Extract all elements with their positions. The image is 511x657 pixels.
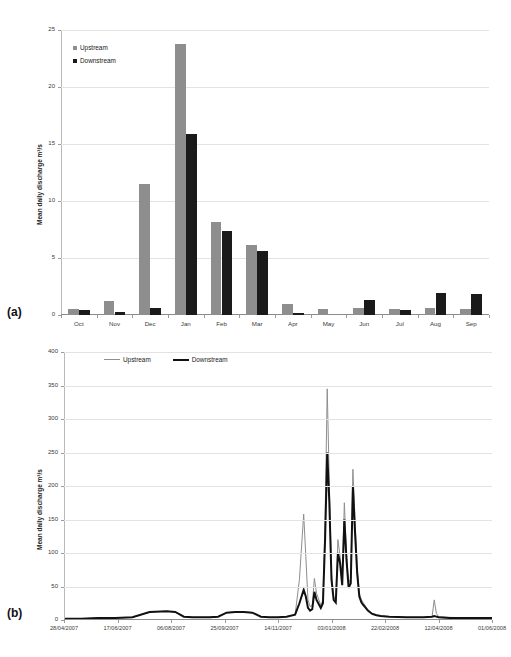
gridline bbox=[64, 553, 492, 554]
x-tick-label-date: 12/04/2008 bbox=[411, 625, 467, 631]
legend-label-upstream: Upstream bbox=[123, 356, 151, 363]
x-tick-mark bbox=[278, 620, 279, 623]
bar-downstream bbox=[364, 300, 375, 315]
bar-upstream bbox=[68, 309, 79, 315]
y-tick-mark bbox=[58, 87, 61, 88]
panel-b-plot-area: 050100150200250300350400 28/04/200717/06… bbox=[64, 352, 492, 620]
bar-downstream bbox=[150, 308, 161, 315]
y-tick-mark bbox=[61, 453, 64, 454]
line-upstream bbox=[64, 389, 492, 619]
x-tick-mark bbox=[61, 315, 62, 318]
x-tick-mark bbox=[385, 620, 386, 623]
legend-label-downstream: Downstream bbox=[80, 57, 116, 64]
y-tick-label: 5 bbox=[35, 254, 55, 260]
bar-upstream bbox=[282, 304, 293, 315]
y-tick-mark bbox=[61, 520, 64, 521]
y-tick-label: 250 bbox=[38, 449, 58, 455]
bar-upstream bbox=[175, 44, 186, 315]
x-tick-mark bbox=[171, 620, 172, 623]
y-tick-mark bbox=[58, 30, 61, 31]
y-tick-label: 300 bbox=[38, 415, 58, 421]
legend-swatch-upstream-icon bbox=[73, 46, 77, 50]
x-tick-mark bbox=[118, 620, 119, 623]
y-tick-label: 150 bbox=[38, 516, 58, 522]
y-tick-label: 100 bbox=[38, 549, 58, 555]
bar-downstream bbox=[115, 312, 126, 315]
legend-item-downstream: Downstream bbox=[73, 57, 116, 64]
bar-upstream bbox=[389, 309, 400, 315]
panel-a-plot-area: 0510152025 OctNovDecJanFebMarAprMayJunJu… bbox=[61, 30, 489, 315]
gridline bbox=[64, 520, 492, 521]
legend-line-downstream-icon bbox=[173, 359, 189, 361]
gridline bbox=[64, 486, 492, 487]
y-tick-mark bbox=[61, 553, 64, 554]
x-tick-label-date: 03/01/2008 bbox=[304, 625, 360, 631]
x-tick-label: Jun bbox=[344, 320, 384, 327]
x-tick-mark bbox=[97, 315, 98, 318]
x-tick-mark bbox=[64, 620, 65, 623]
gridline bbox=[64, 386, 492, 387]
panel-a-label: (a) bbox=[7, 305, 22, 319]
y-tick-mark bbox=[61, 419, 64, 420]
y-tick-label: 0 bbox=[38, 616, 58, 622]
bar-downstream bbox=[222, 231, 233, 315]
x-tick-label: Apr bbox=[273, 320, 313, 327]
y-tick-mark bbox=[58, 258, 61, 259]
y-tick-label: 200 bbox=[38, 482, 58, 488]
x-tick-mark bbox=[239, 315, 240, 318]
x-tick-mark bbox=[382, 315, 383, 318]
gridline bbox=[64, 419, 492, 420]
x-tick-label-date: 06/08/2007 bbox=[143, 625, 199, 631]
bar-downstream bbox=[293, 313, 304, 315]
bar-upstream bbox=[139, 184, 150, 315]
y-tick-label: 0 bbox=[35, 311, 55, 317]
x-tick-mark bbox=[311, 315, 312, 318]
x-tick-mark bbox=[132, 315, 133, 318]
legend-line-upstream-icon bbox=[104, 359, 120, 360]
bar-downstream bbox=[257, 251, 268, 315]
x-tick-label: Dec bbox=[130, 320, 170, 327]
x-tick-label: Feb bbox=[202, 320, 242, 327]
y-tick-mark bbox=[58, 201, 61, 202]
x-tick-label: May bbox=[309, 320, 349, 327]
x-tick-mark bbox=[439, 620, 440, 623]
legend-swatch-downstream-icon bbox=[73, 59, 77, 63]
x-tick-label-date: 17/06/2007 bbox=[90, 625, 146, 631]
panel-a-legend: Upstream Downstream bbox=[73, 44, 116, 70]
bar-upstream bbox=[425, 308, 436, 315]
panel-b-label: (b) bbox=[7, 606, 22, 620]
x-tick-label: Sep bbox=[451, 320, 491, 327]
x-tick-mark bbox=[453, 315, 454, 318]
x-tick-label-date: 28/04/2007 bbox=[36, 625, 92, 631]
panel-b-legend: Upstream Downstream bbox=[104, 356, 228, 363]
panel-a-bar-chart: (a) Mean daily discharge m³/s 0510152025… bbox=[0, 0, 505, 340]
x-tick-mark bbox=[275, 315, 276, 318]
bar-downstream bbox=[471, 294, 482, 315]
x-tick-mark bbox=[204, 315, 205, 318]
bar-downstream bbox=[400, 310, 411, 315]
x-tick-mark bbox=[418, 315, 419, 318]
legend-label-upstream: Upstream bbox=[80, 44, 108, 51]
x-tick-mark bbox=[492, 620, 493, 623]
legend-item-upstream: Upstream bbox=[73, 44, 116, 51]
y-tick-mark bbox=[58, 144, 61, 145]
x-tick-mark bbox=[489, 315, 490, 318]
y-tick-label: 50 bbox=[38, 583, 58, 589]
gridline bbox=[61, 258, 489, 259]
x-tick-label: Aug bbox=[416, 320, 456, 327]
legend-label-downstream: Downstream bbox=[192, 356, 228, 363]
bar-upstream bbox=[318, 309, 329, 315]
x-tick-mark bbox=[168, 315, 169, 318]
gridline bbox=[61, 87, 489, 88]
x-tick-label-date: 25/09/2007 bbox=[197, 625, 253, 631]
gridline bbox=[64, 453, 492, 454]
y-tick-label: 20 bbox=[35, 83, 55, 89]
x-tick-label: Mar bbox=[237, 320, 277, 327]
gridline bbox=[61, 30, 489, 31]
y-tick-mark bbox=[61, 486, 64, 487]
gridline bbox=[64, 587, 492, 588]
bar-upstream bbox=[211, 222, 222, 315]
bar-downstream bbox=[79, 310, 90, 315]
x-tick-label: Jan bbox=[166, 320, 206, 327]
